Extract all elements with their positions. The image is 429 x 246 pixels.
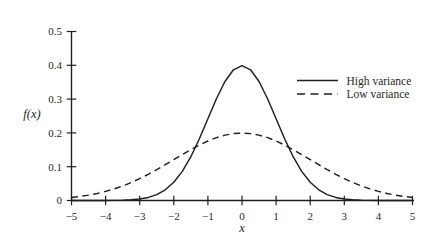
y-tick-label: 0.3 [48, 93, 62, 105]
series-line-low-variance [72, 133, 413, 197]
y-tick-label: 0.4 [48, 59, 62, 71]
x-tick-label: −4 [100, 210, 112, 222]
y-tick-label: 0.5 [48, 25, 62, 37]
x-tick-label: −3 [134, 210, 146, 222]
x-tick-label: −1 [202, 210, 214, 222]
x-tick-label: 4 [376, 210, 382, 222]
x-tick-label: 1 [273, 210, 279, 222]
x-tick-label: 2 [307, 210, 313, 222]
x-tick-label: 3 [342, 210, 348, 222]
x-tick-label: −2 [168, 210, 180, 222]
chart-canvas: 00.10.20.30.40.5−5−4−3−2−1012345High var… [0, 0, 429, 246]
variance-distribution-figure: 00.10.20.30.40.5−5−4−3−2−1012345High var… [0, 0, 429, 246]
y-axis-title: f(x) [23, 107, 40, 121]
x-tick-label: −5 [66, 210, 78, 222]
y-tick-label: 0 [57, 194, 63, 206]
x-tick-label: 5 [410, 210, 416, 222]
y-tick-label: 0.1 [48, 161, 62, 173]
legend-label-low-variance: Low variance [347, 88, 410, 100]
x-axis-title: x [238, 221, 245, 235]
legend-label-high-variance: High variance [347, 75, 412, 88]
y-tick-label: 0.2 [48, 127, 62, 139]
x-tick-label: 0 [239, 210, 245, 222]
